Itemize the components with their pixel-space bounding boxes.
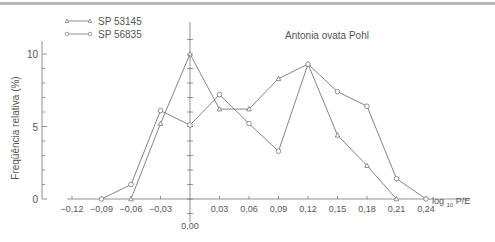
line-chart: 0510−0,12−0,09−0,06−0,030,000,030,060,09… (0, 0, 495, 242)
legend-circle-icon (88, 32, 92, 36)
y-axis-label: Freqüência relativa (%) (10, 76, 21, 179)
x-tick-label: 0,21 (388, 204, 406, 214)
axes: 0510−0,12−0,09−0,06−0,030,000,030,060,09… (27, 22, 470, 231)
y-tick-label: 5 (32, 122, 38, 133)
x-tick-label: 0,09 (270, 204, 288, 214)
x-tick-label: 0,15 (329, 204, 347, 214)
series-line-sp-53145 (131, 54, 397, 199)
x-axis-label-tail: P/E (456, 196, 471, 206)
circle-marker (188, 123, 193, 128)
triangle-marker (158, 121, 163, 125)
x-axis-label-sub: 10 (447, 202, 454, 208)
legend-label: SP 53145 (98, 16, 142, 27)
circle-marker (424, 197, 429, 202)
circle-marker (365, 104, 370, 109)
circle-marker (129, 182, 134, 187)
y-tick-label: 0 (32, 194, 38, 205)
triangle-marker (335, 133, 340, 137)
circle-marker (306, 62, 311, 67)
legend: SP 53145SP 56835 (65, 16, 142, 40)
x-axis-label: log 10 P/E (432, 196, 470, 209)
x-tick-label: 0,03 (211, 204, 229, 214)
x-axis-label-main: log (432, 196, 444, 206)
chart-title: Antonia ovata Pohl (285, 30, 369, 41)
circle-marker (217, 92, 222, 97)
circle-marker (158, 108, 163, 113)
legend-triangle-icon (88, 19, 92, 23)
x-tick-label: −0,03 (149, 204, 172, 214)
circle-marker (335, 89, 340, 94)
series-line-sp-56835 (102, 64, 427, 199)
x-tick-label: −0,09 (90, 204, 113, 214)
series-group (99, 52, 428, 202)
legend-circle-icon (65, 32, 69, 36)
x-tick-label: 0,18 (358, 204, 376, 214)
circle-marker (394, 176, 399, 181)
circle-marker (247, 121, 252, 126)
legend-triangle-icon (65, 19, 69, 23)
legend-label: SP 56835 (98, 29, 142, 40)
x-tick-label: 0,00 (181, 221, 199, 231)
circle-marker (99, 197, 104, 202)
x-tick-label: −0,12 (61, 204, 84, 214)
x-tick-label: 0,12 (299, 204, 317, 214)
circle-marker (276, 149, 281, 154)
x-tick-label: −0,06 (120, 204, 143, 214)
x-tick-label: 0,06 (240, 204, 258, 214)
y-tick-label: 10 (27, 49, 39, 60)
